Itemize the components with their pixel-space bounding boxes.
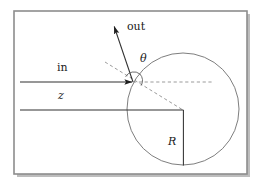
label-z: z xyxy=(58,90,64,101)
label-out: out xyxy=(127,21,145,32)
diagram-frame xyxy=(14,11,247,174)
label-in: in xyxy=(57,62,68,73)
diagram-canvas: out θ in z R xyxy=(0,0,260,185)
label-theta: θ xyxy=(140,53,147,64)
label-R: R xyxy=(168,136,176,147)
